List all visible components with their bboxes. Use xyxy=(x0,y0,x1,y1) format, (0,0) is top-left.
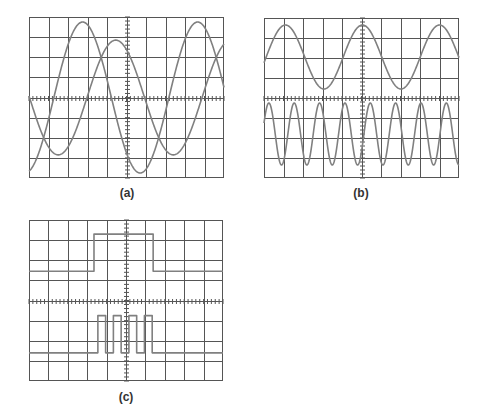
scope-panel-b xyxy=(264,18,459,178)
scope-screen xyxy=(29,220,223,381)
graticule xyxy=(29,220,223,381)
panel-label-c: (c) xyxy=(106,390,146,404)
scope-panel-a xyxy=(29,17,224,178)
trace-top xyxy=(264,25,459,89)
scope-screen xyxy=(29,17,224,178)
scope-panel-c xyxy=(29,220,223,381)
panel-label-b: (b) xyxy=(341,186,381,200)
panel-label-a: (a) xyxy=(107,186,147,200)
scope-screen xyxy=(264,18,459,178)
